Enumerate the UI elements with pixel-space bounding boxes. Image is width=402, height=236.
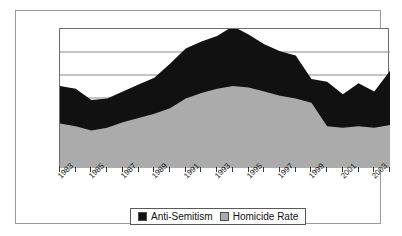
chart-page: 1983198519871989199119931995199719992001…	[0, 0, 402, 236]
stacked-area-plot	[60, 29, 390, 168]
chart-legend: Anti-Semitism Homicide Rate	[130, 208, 306, 225]
legend-item-homicide-rate: Homicide Rate	[220, 211, 299, 222]
x-axis-tick	[106, 167, 107, 172]
legend-label-anti-semitism: Anti-Semitism	[151, 211, 213, 222]
legend-swatch-homicide-rate	[220, 212, 229, 221]
x-axis-tick	[200, 167, 201, 172]
chart-outer-frame: 1983198519871989199119931995199719992001…	[15, 10, 381, 224]
x-axis-tick	[75, 167, 76, 172]
x-axis-tick	[389, 167, 390, 172]
x-axis-tick	[326, 167, 327, 172]
x-axis-tick	[138, 167, 139, 172]
plot-area	[59, 28, 389, 167]
legend-item-anti-semitism: Anti-Semitism	[138, 211, 213, 222]
x-axis-tick	[263, 167, 264, 172]
x-axis-tick	[358, 167, 359, 172]
legend-swatch-anti-semitism	[138, 212, 147, 221]
x-axis-tick	[169, 167, 170, 172]
x-axis-tick	[232, 167, 233, 172]
legend-label-homicide-rate: Homicide Rate	[233, 211, 299, 222]
x-axis: 1983198519871989199119931995199719992001…	[59, 167, 390, 207]
x-axis-tick	[295, 167, 296, 172]
